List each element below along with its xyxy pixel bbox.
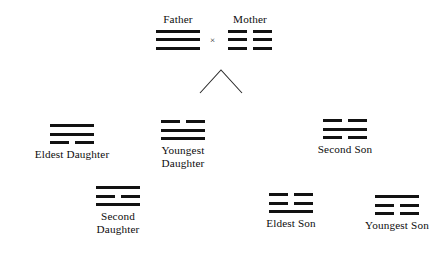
trigram-line-segment xyxy=(323,119,342,122)
trigram-line-segment xyxy=(269,193,288,196)
trigram-line-1-broken xyxy=(228,30,272,33)
trigram-li xyxy=(96,186,140,206)
trigram-line-segment xyxy=(253,47,272,50)
trigram-line-segment xyxy=(96,186,140,189)
trigram-line-segment xyxy=(96,195,115,198)
node-youngest-son-label: Youngest Son xyxy=(365,219,429,232)
relation-cross-symbol: × xyxy=(210,36,215,45)
trigram-line-2-solid xyxy=(50,133,94,136)
trigram-line-segment xyxy=(50,133,94,136)
trigram-line-segment xyxy=(50,141,69,144)
trigram-line-3-solid xyxy=(96,203,140,206)
trigram-line-segment xyxy=(253,38,272,41)
trigram-line-1-broken xyxy=(161,120,205,123)
trigram-xun xyxy=(50,124,94,144)
trigram-line-segment xyxy=(228,38,247,41)
trigram-zhen xyxy=(269,193,313,213)
trigram-line-segment xyxy=(294,193,313,196)
trigram-line-1-solid xyxy=(96,186,140,189)
trigram-line-segment xyxy=(348,119,367,122)
trigram-line-1-solid xyxy=(156,30,200,33)
trigram-line-segment xyxy=(50,124,94,127)
node-second-daughter-label: Second Daughter xyxy=(97,210,140,235)
trigram-line-2-broken xyxy=(375,204,419,207)
trigram-line-1-broken xyxy=(323,119,367,122)
trigram-line-segment xyxy=(375,204,394,207)
trigram-line-2-broken xyxy=(96,195,140,198)
trigram-line-segment xyxy=(375,195,419,198)
trigram-line-3-solid xyxy=(161,137,205,140)
node-eldest-daughter: Eldest Daughter xyxy=(14,124,130,161)
trigram-line-3-solid xyxy=(156,47,200,50)
trigram-line-segment xyxy=(186,120,205,123)
trigram-kun xyxy=(228,30,272,50)
trigram-line-segment xyxy=(294,202,313,205)
node-youngest-son: Youngest Son xyxy=(352,195,442,232)
trigram-line-1-solid xyxy=(375,195,419,198)
trigram-line-segment xyxy=(323,128,367,131)
trigram-line-3-broken xyxy=(228,47,272,50)
trigram-line-segment xyxy=(161,137,205,140)
trigram-dui xyxy=(161,120,205,140)
node-second-daughter: Second Daughter xyxy=(72,186,164,235)
trigram-line-segment xyxy=(161,120,180,123)
trigram-line-2-solid xyxy=(161,129,205,132)
trigram-line-segment xyxy=(121,195,140,198)
node-mother: Mother xyxy=(228,13,272,50)
trigram-line-segment xyxy=(156,47,200,50)
parents-row: Father × Mother xyxy=(0,0,443,70)
trigram-line-2-broken xyxy=(269,202,313,205)
trigram-gen xyxy=(375,195,419,215)
trigram-line-segment xyxy=(269,210,313,213)
trigram-line-2-solid xyxy=(323,128,367,131)
trigram-kan xyxy=(323,119,367,139)
branch-chevron-icon xyxy=(198,68,244,94)
trigram-line-2-broken xyxy=(228,38,272,41)
trigram-line-3-broken xyxy=(50,141,94,144)
trigram-line-segment xyxy=(161,129,205,132)
trigram-line-segment xyxy=(75,141,94,144)
node-youngest-daughter-label: Youngest Daughter xyxy=(162,144,205,169)
trigram-line-segment xyxy=(156,30,200,33)
node-second-son: Second Son xyxy=(292,119,398,156)
trigram-line-segment xyxy=(400,212,419,215)
node-eldest-daughter-label: Eldest Daughter xyxy=(35,148,110,161)
node-mother-label: Mother xyxy=(233,13,267,26)
trigram-line-3-broken xyxy=(375,212,419,215)
trigram-line-segment xyxy=(253,30,272,33)
trigram-line-segment xyxy=(228,30,247,33)
trigram-line-1-solid xyxy=(50,124,94,127)
trigram-line-segment xyxy=(269,202,288,205)
trigram-line-segment xyxy=(323,136,342,139)
node-youngest-daughter: Youngest Daughter xyxy=(143,120,223,169)
trigram-line-segment xyxy=(228,47,247,50)
node-father-label: Father xyxy=(163,13,192,26)
node-father: Father xyxy=(156,13,200,50)
trigram-qian xyxy=(156,30,200,50)
node-eldest-son-label: Eldest Son xyxy=(266,217,316,230)
node-second-son-label: Second Son xyxy=(318,143,373,156)
trigram-line-segment xyxy=(375,212,394,215)
trigram-line-segment xyxy=(96,203,140,206)
trigram-line-segment xyxy=(156,38,200,41)
trigram-line-3-broken xyxy=(323,136,367,139)
trigram-line-segment xyxy=(400,204,419,207)
trigram-line-segment xyxy=(348,136,367,139)
trigram-line-1-broken xyxy=(269,193,313,196)
trigram-line-2-solid xyxy=(156,38,200,41)
node-eldest-son: Eldest Son xyxy=(245,193,337,230)
trigram-line-3-solid xyxy=(269,210,313,213)
